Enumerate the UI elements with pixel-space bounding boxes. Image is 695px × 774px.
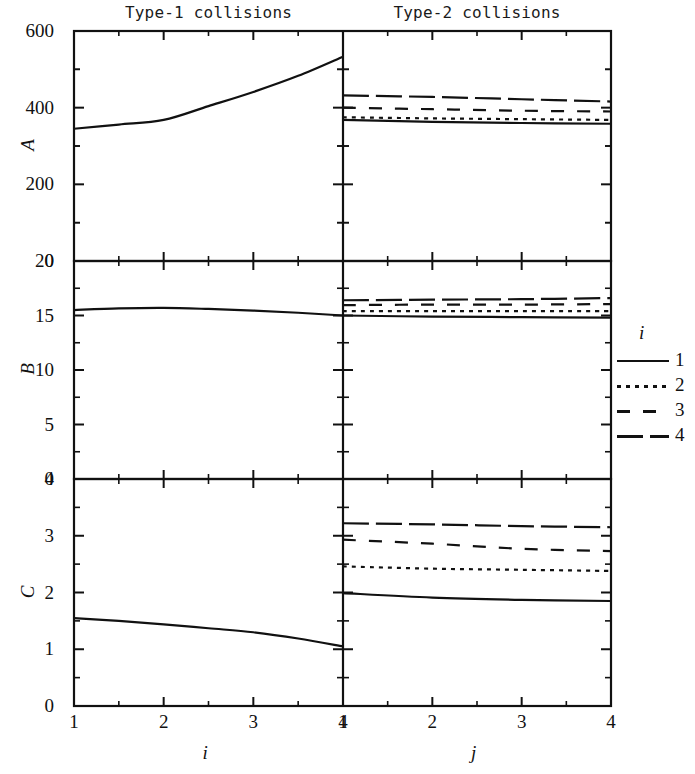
- panel-title-type2: Type-2 collisions: [343, 3, 611, 22]
- ytick-label-a-400: 400: [0, 98, 54, 117]
- ytick-label-b-15: 15: [0, 306, 54, 325]
- ytick-label-c-0: 0: [0, 696, 54, 715]
- legend-item-4[interactable]: 4: [617, 425, 695, 447]
- legend-line-sample-dashed: [617, 410, 669, 413]
- panel-title-type1: Type-1 collisions: [74, 3, 343, 22]
- series-line-c-type2-i3: [343, 540, 611, 551]
- legend-item-3[interactable]: 3: [617, 400, 695, 422]
- series-line-b-type1-i1: [74, 308, 343, 316]
- axis-label-a: A: [17, 135, 39, 155]
- axis-label-c: C: [17, 582, 39, 602]
- xtick-label-type2-4: 4: [591, 712, 631, 731]
- ytick-label-b-20: 20: [0, 251, 54, 270]
- legend-item-1[interactable]: 1: [617, 350, 695, 372]
- legend-line-sample-solid: [617, 360, 669, 362]
- plot-area: [0, 0, 695, 774]
- ytick-label-b-5: 5: [0, 415, 54, 434]
- axis-label-b: B: [17, 359, 39, 379]
- axis-label-i: i: [203, 742, 208, 764]
- legend-line-sample-dotted: [617, 385, 669, 388]
- legend-label-2: 2: [675, 375, 685, 395]
- series-line-a-type2-i3: [343, 108, 611, 112]
- series-line-c-type2-i4: [343, 523, 611, 527]
- ytick-label-a-200: 200: [0, 174, 54, 193]
- legend-label-4: 4: [675, 425, 685, 445]
- ytick-label-c-4: 4: [0, 469, 54, 488]
- legend-item-2[interactable]: 2: [617, 375, 695, 397]
- ytick-label-c-3: 3: [0, 526, 54, 545]
- series-line-a-type1-i1: [74, 57, 343, 129]
- series-line-b-type2-i4: [343, 298, 611, 300]
- legend-label-1: 1: [675, 350, 685, 370]
- axis-label-j: j: [471, 742, 476, 764]
- xtick-label-type2-3: 3: [502, 712, 542, 731]
- legend: i 1234: [617, 322, 695, 432]
- series-line-b-type2-i3: [343, 304, 611, 305]
- ytick-label-c-1: 1: [0, 639, 54, 658]
- legend-title: i: [639, 322, 644, 344]
- figure-canvas: Type-1 collisions Type-2 collisions i 12…: [0, 0, 695, 774]
- series-line-a-type2-i4: [343, 95, 611, 101]
- xtick-label-type1-1: 1: [54, 712, 94, 731]
- series-line-c-type1-i1: [74, 618, 343, 646]
- series-line-c-type2-i2: [343, 566, 611, 571]
- xtick-label-type2-1: 1: [323, 712, 363, 731]
- xtick-label-type1-2: 2: [144, 712, 184, 731]
- series-line-a-type2-i2: [343, 117, 611, 120]
- xtick-label-type1-3: 3: [233, 712, 273, 731]
- legend-line-sample-longdash: [617, 435, 669, 438]
- legend-label-3: 3: [675, 400, 685, 420]
- xtick-label-type2-2: 2: [412, 712, 452, 731]
- series-line-b-type2-i1: [343, 316, 611, 318]
- ytick-label-a-600: 600: [0, 21, 54, 40]
- series-line-c-type2-i1: [343, 593, 611, 601]
